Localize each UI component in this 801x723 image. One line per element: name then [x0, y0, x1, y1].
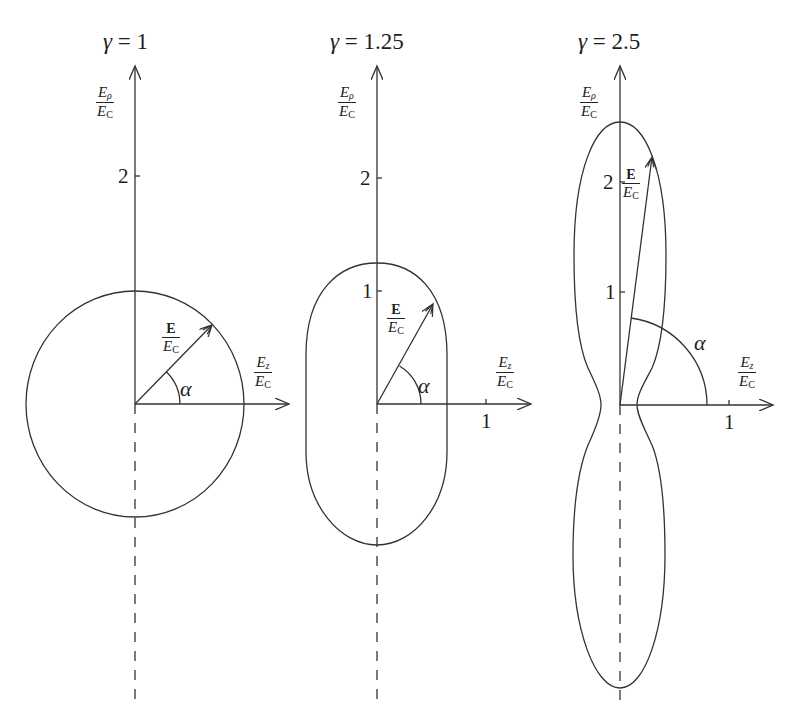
angle-label: α: [694, 332, 706, 354]
label-den: E: [581, 103, 590, 119]
label-sub: ρ: [107, 90, 112, 101]
label-den: E: [739, 373, 748, 389]
gamma-symbol: γ: [578, 29, 587, 54]
equals-sign: =: [587, 29, 611, 54]
y-axis-label: Eρ EC: [338, 85, 356, 120]
label-den: E: [339, 103, 348, 119]
x-axis-label: Ez EC: [496, 355, 514, 390]
label-sub: C: [348, 109, 355, 120]
y-axis-label: Eρ EC: [580, 85, 598, 120]
label-den: E: [163, 338, 172, 354]
y-tick-label-2: 2: [603, 172, 614, 193]
angle-arc: [167, 372, 181, 404]
y-tick-label-1: 1: [362, 281, 373, 302]
label-num: E: [390, 303, 401, 317]
angle-label: α: [418, 375, 430, 397]
x-tick-label-1: 1: [481, 411, 492, 432]
label-num: E: [256, 354, 265, 370]
label-den: E: [388, 319, 397, 335]
gamma-value: 2.5: [612, 29, 641, 54]
y-tick-label-2: 2: [360, 168, 371, 189]
panel-title: γ = 1.25: [330, 30, 404, 53]
label-sub: C: [632, 190, 639, 201]
label-num: E: [98, 84, 107, 100]
vector-label: E EC: [162, 322, 180, 355]
panel-title: γ = 2.5: [578, 30, 640, 53]
gamma-value: 1.25: [364, 29, 404, 54]
label-sub: z: [750, 360, 754, 371]
label-den: E: [623, 184, 632, 200]
label-den: E: [255, 373, 264, 389]
x-tick-label-1: 1: [724, 412, 735, 433]
label-num: E: [625, 168, 636, 182]
label-den: E: [97, 103, 106, 119]
gamma-symbol: γ: [103, 29, 112, 54]
label-sub: ρ: [591, 90, 596, 101]
y-tick-label-1: 1: [605, 282, 616, 303]
panel-title: γ = 1: [103, 30, 148, 53]
label-num: E: [740, 354, 749, 370]
label-sub: ρ: [349, 90, 354, 101]
y-tick-label-2: 2: [118, 166, 129, 187]
y-axis-label: Eρ EC: [96, 85, 114, 120]
diagram-canvas: [0, 0, 801, 723]
label-sub: z: [266, 360, 270, 371]
label-sub: z: [508, 360, 512, 371]
equals-sign: =: [112, 29, 136, 54]
label-sub: C: [506, 379, 513, 390]
label-den: E: [497, 373, 506, 389]
label-num: E: [582, 84, 591, 100]
x-axis-label: Ez EC: [254, 355, 272, 390]
panel-gamma-1: [26, 66, 289, 700]
vector-label: E EC: [387, 303, 405, 336]
gamma-symbol: γ: [330, 29, 339, 54]
label-sub: C: [397, 325, 404, 336]
label-sub: C: [106, 109, 113, 120]
label-sub: C: [748, 379, 755, 390]
equals-sign: =: [339, 29, 363, 54]
label-num: E: [165, 322, 176, 336]
gamma-value: 1: [137, 29, 149, 54]
label-sub: C: [590, 109, 597, 120]
label-sub: C: [172, 344, 179, 355]
x-axis-label: Ez EC: [738, 355, 756, 390]
label-num: E: [498, 354, 507, 370]
angle-label: α: [180, 378, 192, 400]
label-num: E: [340, 84, 349, 100]
vector-label: E EC: [622, 168, 640, 201]
label-sub: C: [264, 379, 271, 390]
